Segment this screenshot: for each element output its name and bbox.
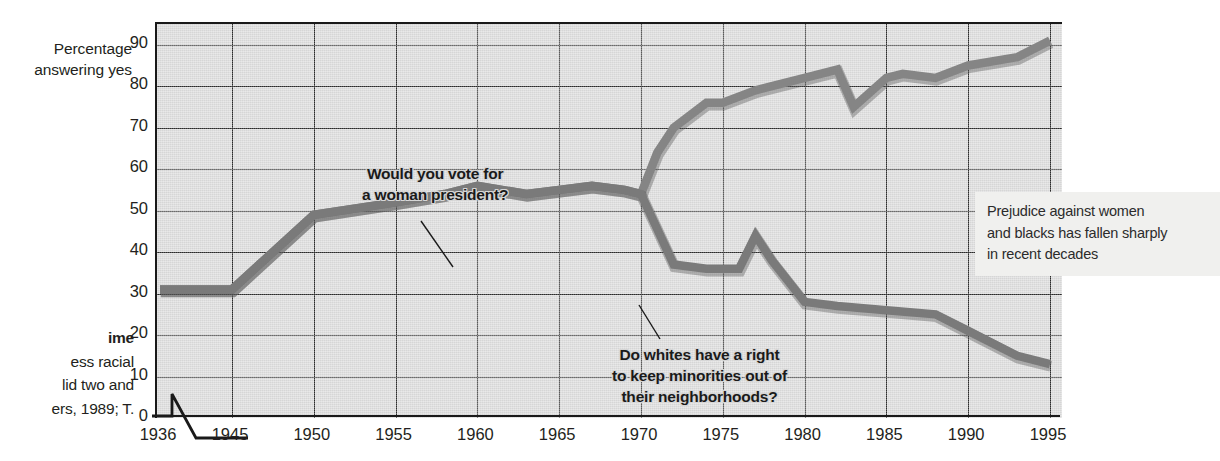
- callout-line3: in recent decades: [987, 244, 1209, 266]
- annotation-women-president: Would you vote for a woman president?: [362, 163, 508, 205]
- callout-prejudice-note: Prejudice against women and blacks has f…: [975, 192, 1220, 276]
- x-axis-tick-label: 1960: [457, 425, 494, 444]
- y-axis-tick-label: 0: [118, 406, 148, 425]
- x-axis-tick-label: 1950: [293, 425, 330, 444]
- x-axis-tick-label: 1975: [702, 425, 739, 444]
- series-layer: [157, 24, 1062, 418]
- y-axis-tick-label: 70: [118, 116, 148, 135]
- callout-line2: and blacks has fallen sharply: [987, 223, 1209, 245]
- x-axis-tick-label: 1945: [212, 425, 249, 444]
- y-axis-tick-label: 80: [118, 74, 148, 93]
- leader-line-whites: [639, 305, 660, 339]
- y-axis-tick-label: 20: [118, 323, 148, 342]
- chart-plot-area: Would you vote for a woman president? Do…: [155, 22, 1062, 418]
- y-axis-tick-label: 30: [118, 282, 148, 301]
- annotation-women-line1: Would you vote for: [362, 163, 508, 184]
- series-shadow: [161, 188, 1051, 366]
- annotation-whites-neighborhoods: Do whites have a right to keep minoritie…: [612, 344, 787, 407]
- y-axis-tick-label: 10: [118, 365, 148, 384]
- x-axis-rule: [155, 415, 1060, 417]
- series-line-whites-neighborhoods: [160, 186, 1050, 364]
- x-axis-tick-label: 1955: [375, 425, 412, 444]
- series-shadow: [161, 43, 1051, 292]
- x-axis-tick-label: 1990: [948, 425, 985, 444]
- x-axis-tick-label: 1995: [1030, 425, 1067, 444]
- x-axis-tick-label: 1970: [621, 425, 658, 444]
- y-axis-tick-label: 40: [118, 240, 148, 259]
- y-axis-tick-labels: 0102030405060708090: [108, 22, 148, 416]
- x-axis-tick-labels: 1936194519501955196019651970197519801985…: [155, 425, 1060, 449]
- x-axis-tick-label: 1980: [784, 425, 821, 444]
- y-axis-tick-label: 60: [118, 157, 148, 176]
- annotation-whites-line3: their neighborhoods?: [612, 386, 787, 407]
- scan-scuff-artifact: [1087, 327, 1171, 343]
- annotation-whites-line2: to keep minorities out of: [612, 365, 787, 386]
- x-axis-tick-label: 1985: [866, 425, 903, 444]
- annotation-women-line2: a woman president?: [362, 184, 508, 205]
- callout-line1: Prejudice against women: [987, 201, 1209, 223]
- y-axis-tick-label: 90: [118, 33, 148, 52]
- series-line-women-president: [160, 41, 1050, 290]
- y-axis-tick-label: 50: [118, 199, 148, 218]
- x-axis-tick-label: 1965: [539, 425, 576, 444]
- annotation-whites-line1: Do whites have a right: [612, 344, 787, 365]
- leader-line-women: [421, 221, 453, 267]
- x-axis-tick-label: 1936: [140, 425, 177, 444]
